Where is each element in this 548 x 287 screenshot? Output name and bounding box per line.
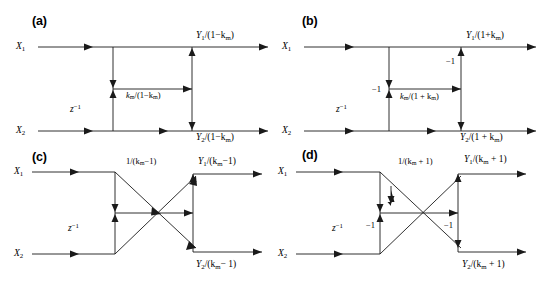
panel-d-input-bottom: X2: [278, 248, 287, 259]
panel-b-input-top: X1: [282, 41, 291, 52]
panel-b-gain-left: −1: [372, 84, 381, 94]
panel-b-branch-gain: km/(1 + km): [400, 91, 439, 101]
panel-d-gain-left: −1: [366, 220, 375, 230]
panel-a: (a): [0, 0, 274, 143]
panel-a-input-bottom: X2: [16, 125, 25, 136]
panel-c-input-top: X1: [14, 166, 23, 177]
panel-b-graph: [274, 0, 548, 143]
panel-c-branch-gain: 1/(km−1): [126, 156, 156, 166]
panel-b-gain-right: −1: [446, 56, 455, 66]
panel-b-output-top: Y1/(1+km): [466, 30, 504, 41]
panel-a-graph: [0, 0, 274, 143]
panel-a-output-bottom: Y2/(1−km): [196, 132, 234, 143]
panel-c-delay-label: z−1: [68, 222, 79, 233]
panel-d-delay-label: z−1: [332, 222, 343, 233]
panel-d: (d) X1: [274, 144, 548, 287]
panel-a-output-top: Y1/(1−km): [196, 30, 234, 41]
figure-root: (a): [0, 0, 548, 287]
panel-a-input-top: X1: [16, 41, 25, 52]
panel-b-input-bottom: X2: [282, 125, 291, 136]
panel-c-output-bottom: Y2/(km− 1): [196, 259, 236, 270]
panel-b-delay-label: z−1: [336, 103, 347, 114]
panel-c-output-top: Y1/(km−1): [198, 156, 236, 167]
panel-d-branch-gain: 1/(km + 1): [398, 156, 433, 166]
panel-d-output-bottom: Y2/(km + 1): [462, 259, 505, 270]
panel-d-input-top: X1: [278, 166, 287, 177]
panel-d-gain-right: −1: [444, 220, 453, 230]
panel-c-input-bottom: X2: [14, 248, 23, 259]
panel-b: (b) X1 X2 z−1 −1 −1: [274, 0, 548, 143]
panel-b-output-bottom: Y2/(1 + km): [460, 132, 503, 143]
panel-a-delay-label: z−1: [70, 103, 81, 114]
panel-a-branch-gain: km/(1−km): [126, 90, 161, 100]
panel-c: (c): [0, 144, 274, 287]
panel-d-output-top: Y1/(km + 1): [464, 154, 507, 165]
